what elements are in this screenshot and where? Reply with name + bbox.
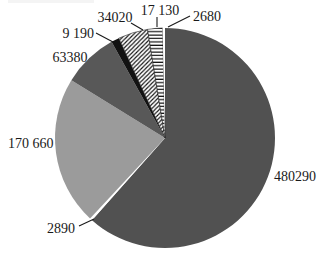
slice-label-34020: 34020 [98, 10, 133, 25]
slice-label-2890: 2890 [47, 221, 75, 236]
slice-label-63380: 63380 [53, 50, 88, 65]
slice-label-9190: 9 190 [63, 26, 95, 41]
pie-chart-figure: 4802902890170 660633809 1903402017 13026… [0, 0, 318, 260]
slice-label-170660: 170 660 [8, 136, 54, 151]
pie-chart: 4802902890170 660633809 1903402017 13026… [0, 0, 318, 260]
leader-line-34020 [131, 23, 143, 30]
scan-artifact [8, 0, 94, 3]
pie-slices-group [55, 28, 275, 248]
leader-line-2890 [79, 219, 94, 226]
slice-label-480290: 480290 [274, 169, 316, 184]
slice-label-17130: 17 130 [141, 3, 180, 18]
slice-label-2680: 2680 [193, 9, 221, 24]
leader-line-9190 [96, 33, 113, 42]
